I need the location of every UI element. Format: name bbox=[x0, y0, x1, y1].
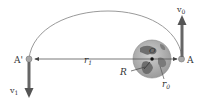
center-point-O bbox=[150, 57, 154, 61]
point-A-prime bbox=[26, 56, 32, 62]
label-r1: r1 bbox=[84, 55, 92, 66]
label-v0: v0 bbox=[176, 5, 186, 15]
label-O: O bbox=[149, 46, 156, 55]
label-r0: r0 bbox=[162, 79, 170, 90]
label-A: A bbox=[186, 55, 194, 65]
label-R: R bbox=[119, 67, 127, 77]
label-v1: v1 bbox=[9, 86, 18, 96]
v1-arrow bbox=[25, 62, 34, 98]
orbit-diagram: v0 v1 A A' O r1 R r0 bbox=[0, 0, 203, 105]
label-A-prime: A' bbox=[13, 55, 23, 65]
v0-arrow bbox=[178, 15, 187, 57]
